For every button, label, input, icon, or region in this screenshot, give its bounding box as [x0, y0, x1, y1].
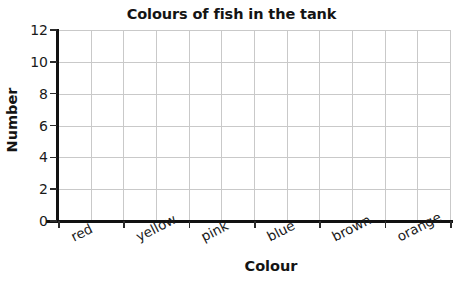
x-axis-tick: [450, 221, 452, 228]
x-axis-title: Colour: [186, 258, 356, 274]
x-axis-line: [46, 220, 453, 223]
y-axis-tick: [50, 29, 57, 31]
x-axis-tick: [385, 221, 387, 228]
y-axis-title: Number: [4, 80, 20, 160]
y-axis-tick-label: 2: [22, 182, 48, 196]
x-axis-tick: [189, 221, 191, 228]
y-axis-tick: [50, 220, 57, 222]
plot-area: [58, 30, 450, 221]
y-axis-tick-label: 8: [22, 87, 48, 101]
y-axis-tick-label: 0: [22, 214, 48, 228]
x-axis-category-label: red: [69, 222, 95, 244]
x-axis-tick: [254, 221, 256, 228]
y-axis-tick: [50, 61, 57, 63]
y-axis-tick: [50, 125, 57, 127]
x-axis-tick: [319, 221, 321, 228]
y-axis-tick-label: 12: [22, 23, 48, 37]
y-axis-tick: [50, 188, 57, 190]
y-axis-tick: [50, 93, 57, 95]
x-axis-tick: [123, 221, 125, 228]
y-axis-tick-label: 4: [22, 150, 48, 164]
chart-title: Colours of fish in the tank: [0, 6, 463, 22]
x-axis-tick: [58, 221, 60, 228]
y-axis-tick-label: 10: [22, 55, 48, 69]
grid-line-vertical: [450, 30, 451, 221]
y-axis-tick: [50, 157, 57, 159]
bars-layer: [58, 30, 450, 221]
bar-chart: Colours of fish in the tank 024681012 re…: [0, 0, 463, 283]
y-axis-tick-label: 6: [22, 119, 48, 133]
